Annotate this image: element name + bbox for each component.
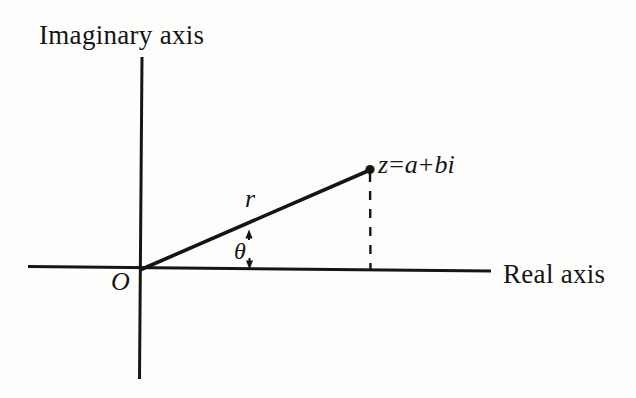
argument-label-theta: θ (234, 239, 246, 263)
z-symbol: z (378, 150, 388, 179)
origin-label: O (111, 269, 130, 295)
plus-sign: + (418, 150, 435, 179)
complex-plane-diagram (0, 0, 636, 398)
imaginary-part-bi: bi (434, 150, 454, 179)
modulus-label-r: r (245, 186, 255, 212)
projection-dashed-line (370, 173, 371, 270)
imaginary-axis-label: Imaginary axis (39, 22, 204, 49)
point-z-equation: z=a+bi (378, 152, 455, 178)
equals-sign: = (388, 150, 405, 179)
point-z-marker (365, 165, 374, 174)
figure-canvas: Imaginary axis Real axis O r θ z=a+bi (0, 0, 636, 398)
imaginary-axis-line (140, 57, 143, 379)
real-part-a: a (405, 150, 418, 179)
modulus-ray (141, 170, 370, 270)
angle-double-arrow (245, 230, 253, 270)
real-axis-line (28, 267, 491, 272)
real-axis-label: Real axis (503, 261, 605, 288)
